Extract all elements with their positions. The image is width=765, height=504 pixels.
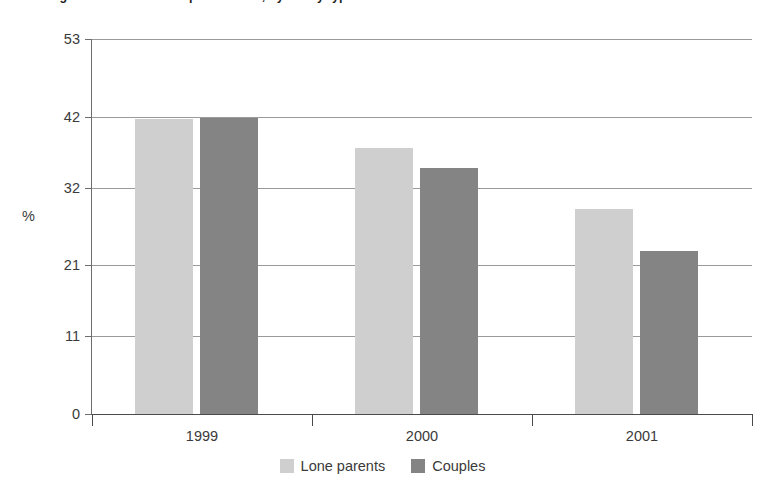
chart-legend: Lone parentsCouples (0, 459, 765, 474)
bar-chart-figure: Percentage of families in receipt of ben… (0, 0, 765, 504)
legend-item: Couples (411, 459, 485, 474)
legend-swatch (280, 459, 294, 473)
y-tick-label: 11 (44, 329, 80, 344)
y-tick-mark (85, 265, 92, 266)
x-tick-mark (752, 415, 753, 426)
y-tick-label: 42 (44, 110, 80, 125)
x-axis-line (86, 414, 753, 415)
bar (640, 251, 698, 414)
y-tick-label-wrap: 21 (40, 258, 80, 272)
legend-swatch (411, 459, 425, 473)
bar (135, 119, 193, 414)
chart-title: Percentage of families in receipt of ben… (6, 0, 354, 3)
gridline (92, 117, 752, 118)
y-tick-mark (85, 117, 92, 118)
y-tick-mark (85, 336, 92, 337)
y-tick-label-wrap: 42 (40, 110, 80, 124)
x-tick-mark (92, 415, 93, 426)
y-axis-line (91, 39, 92, 415)
bar (355, 148, 413, 414)
plot-area (92, 39, 752, 414)
x-tick-label: 2001 (582, 428, 702, 444)
bar (200, 118, 258, 414)
gridline (92, 39, 752, 40)
y-tick-label-wrap: 53 (40, 32, 80, 46)
y-tick-mark (85, 414, 92, 415)
legend-label: Couples (432, 459, 485, 474)
y-tick-label: 32 (44, 181, 80, 196)
x-tick-label: 2000 (362, 428, 482, 444)
y-tick-label: 21 (44, 258, 80, 273)
y-tick-label: 53 (44, 32, 80, 47)
bar (575, 209, 633, 414)
y-axis-title: % (22, 208, 35, 224)
bar (420, 168, 478, 414)
x-tick-label: 1999 (142, 428, 262, 444)
legend-label: Lone parents (301, 459, 386, 474)
y-tick-label-wrap: 32 (40, 181, 80, 195)
y-tick-mark (85, 188, 92, 189)
y-tick-label-wrap: 11 (40, 329, 80, 343)
y-tick-label: 0 (44, 407, 80, 422)
x-tick-mark (532, 415, 533, 426)
legend-item: Lone parents (280, 459, 386, 474)
y-tick-mark (85, 39, 92, 40)
y-tick-label-wrap: 0 (40, 407, 80, 421)
x-tick-mark (312, 415, 313, 426)
